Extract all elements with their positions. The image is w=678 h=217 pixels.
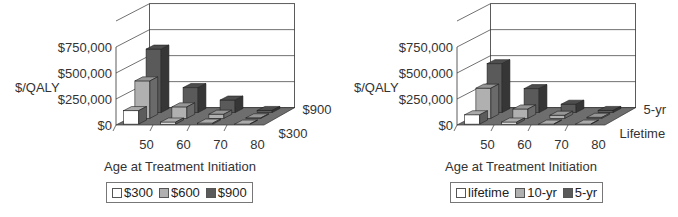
- y-tick-label: $0: [439, 118, 453, 133]
- legend-entry: $300: [112, 185, 153, 200]
- y-tick-label: $500,000: [58, 66, 112, 81]
- bar-side: [150, 77, 158, 118]
- legend-label: 10-yr: [527, 185, 557, 200]
- y-tick-label: $750,000: [399, 40, 453, 55]
- legend-entry: $900: [206, 185, 247, 200]
- legend-swatch: [159, 188, 169, 198]
- depth-label: $300: [279, 126, 308, 141]
- bar-side: [198, 84, 206, 113]
- depth-label: $900: [303, 102, 332, 117]
- x-tick-label: 60: [176, 137, 190, 152]
- chart-legend: lifetime10-yr5-yr: [450, 182, 603, 203]
- x-axis-label: Age at Treatment Initiation: [445, 159, 597, 174]
- bar: [465, 111, 488, 124]
- bar-front: [209, 114, 224, 118]
- y-tick-label: $750,000: [58, 40, 112, 55]
- x-tick-label: 70: [213, 137, 227, 152]
- bar-side: [491, 84, 499, 118]
- bar-side: [161, 45, 169, 112]
- legend-entry: lifetime: [456, 185, 509, 200]
- legend-swatch: [206, 188, 216, 198]
- y-tick-label: $0: [98, 118, 112, 133]
- x-tick-label: 70: [554, 137, 568, 152]
- depth-label: 5-yr: [644, 102, 667, 117]
- bar: [172, 103, 195, 118]
- bar-side: [539, 85, 547, 113]
- bar-front: [550, 115, 565, 118]
- x-tick-label: 50: [139, 137, 153, 152]
- legend-label: $600: [171, 185, 200, 200]
- bar-side: [502, 60, 510, 113]
- y-tick-label: $500,000: [399, 66, 453, 81]
- bar-front: [513, 109, 528, 118]
- y-tick-label: $250,000: [58, 92, 112, 107]
- legend-swatch: [112, 188, 122, 198]
- y-axis-label: $/QALY: [15, 80, 60, 95]
- legend-label: $900: [218, 185, 247, 200]
- bar-front: [172, 107, 187, 118]
- bar-front: [598, 110, 613, 112]
- x-tick-label: 60: [517, 137, 531, 152]
- chart-legend: $300$600$900: [106, 182, 253, 203]
- legend-label: lifetime: [468, 185, 509, 200]
- chart-cost-by-time-horizon: $0$250,000$500,000$750,000$/QALY50607080…: [339, 0, 678, 217]
- legend-swatch: [563, 188, 573, 198]
- x-tick-label: 80: [591, 137, 605, 152]
- legend-entry: 5-yr: [563, 185, 597, 200]
- bar-front: [502, 122, 517, 124]
- bar-front: [465, 115, 480, 124]
- legend-label: 5-yr: [575, 185, 597, 200]
- x-axis-label: Age at Treatment Initiation: [104, 159, 256, 174]
- bar: [513, 105, 536, 118]
- chart-cost-by-drug-price: $0$250,000$500,000$750,000$/QALY50607080…: [0, 0, 339, 217]
- legend-swatch: [515, 188, 525, 198]
- x-tick-label: 50: [480, 137, 494, 152]
- legend-label: $300: [124, 185, 153, 200]
- bar-front: [124, 111, 139, 125]
- legend-swatch: [456, 188, 466, 198]
- x-tick-label: 80: [250, 137, 264, 152]
- y-tick-label: $250,000: [399, 92, 453, 107]
- depth-label: Lifetime: [620, 126, 666, 141]
- bar-front: [161, 122, 176, 124]
- legend-entry: $600: [159, 185, 200, 200]
- bar-front: [257, 110, 272, 112]
- bar: [124, 107, 147, 125]
- legend-entry: 10-yr: [515, 185, 557, 200]
- y-axis-label: $/QALY: [354, 80, 399, 95]
